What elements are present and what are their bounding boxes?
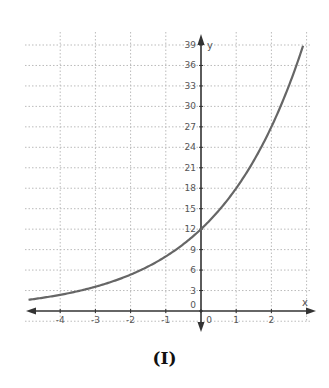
svg-text:30: 30 [185, 101, 197, 111]
exponential-chart: -4-3-2-1012036912151821242730333639yx [0, 0, 329, 345]
figure-caption: (I) [0, 348, 329, 368]
svg-text:0: 0 [190, 300, 196, 310]
svg-text:3: 3 [190, 286, 196, 296]
svg-text:15: 15 [185, 204, 196, 214]
grid-lines [25, 32, 312, 322]
svg-text:18: 18 [185, 183, 197, 193]
svg-text:36: 36 [185, 60, 197, 70]
svg-text:21: 21 [185, 163, 196, 173]
svg-text:0: 0 [206, 315, 212, 325]
svg-text:1: 1 [233, 315, 239, 325]
svg-text:27: 27 [185, 122, 196, 132]
svg-text:24: 24 [185, 142, 197, 152]
svg-text:-4: -4 [56, 315, 65, 325]
tick-labels: -4-3-2-1012036912151821242730333639yx [56, 40, 308, 325]
svg-text:-3: -3 [91, 315, 100, 325]
svg-text:-2: -2 [126, 315, 135, 325]
svg-text:33: 33 [185, 81, 196, 91]
svg-text:2: 2 [269, 315, 275, 325]
svg-text:-1: -1 [161, 315, 170, 325]
axes [26, 34, 316, 332]
svg-text:y: y [207, 40, 213, 51]
svg-text:6: 6 [190, 265, 196, 275]
svg-text:39: 39 [185, 40, 197, 50]
svg-text:x: x [302, 297, 308, 308]
svg-text:9: 9 [190, 245, 196, 255]
svg-text:12: 12 [185, 224, 196, 234]
